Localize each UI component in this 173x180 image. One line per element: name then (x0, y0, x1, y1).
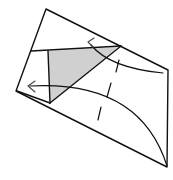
paper-outline (16, 9, 168, 167)
arrow-upper-icon (88, 38, 94, 47)
diagram-canvas (0, 0, 173, 180)
origami-diagram (0, 0, 173, 180)
valley-dash-2 (107, 83, 111, 97)
valley-dash-1 (116, 60, 119, 72)
valley-dash-3 (98, 107, 101, 120)
flap-lower-left (17, 91, 50, 103)
